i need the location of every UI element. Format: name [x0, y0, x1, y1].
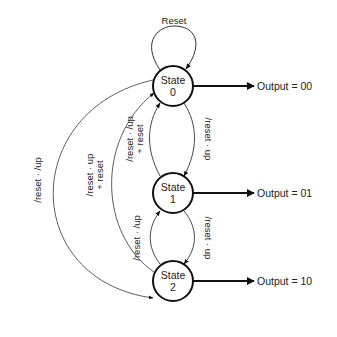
- svg-text:State: State: [161, 181, 186, 193]
- label-s0-s1: /reset · up: [203, 118, 214, 161]
- output-label-0: Output = 00: [257, 80, 312, 92]
- state-diagram: Reset /reset · up /reset · /up + reset /…: [0, 0, 337, 337]
- label-s1-s2: /reset · up: [203, 217, 214, 260]
- state-1: State 1: [153, 173, 193, 213]
- transition-s1-s2: [184, 211, 195, 264]
- state-2: State 2: [153, 261, 193, 301]
- output-label-2: Output = 10: [257, 275, 312, 287]
- transition-reset-loop: [152, 26, 196, 70]
- label-reset: Reset: [162, 15, 187, 26]
- svg-text:State: State: [161, 74, 186, 86]
- svg-text:2: 2: [170, 281, 176, 293]
- svg-text:0: 0: [170, 86, 176, 98]
- state-0: State 0: [153, 66, 193, 106]
- transition-s1-s0: [150, 103, 161, 176]
- output-label-1: Output = 01: [257, 187, 312, 199]
- diagram-svg: Reset /reset · up /reset · /up + reset /…: [0, 0, 337, 337]
- label-s2-s0-b: + reset: [94, 160, 105, 190]
- transition-s0-s1: [184, 103, 195, 176]
- transition-s2-s1: [150, 211, 160, 264]
- label-s2-s1: /reset · /up: [131, 215, 142, 260]
- svg-text:1: 1: [170, 193, 176, 205]
- label-s1-s0-b: + reset: [134, 124, 145, 154]
- svg-text:State: State: [161, 269, 186, 281]
- label-s0-s2: /reset · /up: [32, 157, 43, 202]
